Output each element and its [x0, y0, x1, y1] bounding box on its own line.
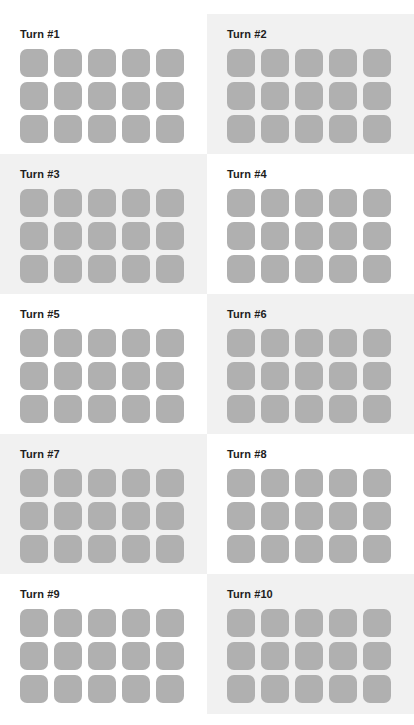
grid-tile[interactable] — [329, 535, 357, 563]
grid-tile[interactable] — [122, 189, 150, 217]
grid-tile[interactable] — [122, 609, 150, 637]
grid-tile[interactable] — [227, 189, 255, 217]
grid-tile[interactable] — [261, 469, 289, 497]
grid-tile[interactable] — [227, 115, 255, 143]
grid-tile[interactable] — [20, 222, 48, 250]
grid-tile[interactable] — [122, 255, 150, 283]
grid-tile[interactable] — [363, 535, 391, 563]
grid-tile[interactable] — [88, 82, 116, 110]
grid-tile[interactable] — [156, 329, 184, 357]
grid-tile[interactable] — [122, 675, 150, 703]
grid-tile[interactable] — [20, 675, 48, 703]
grid-tile[interactable] — [329, 255, 357, 283]
grid-tile[interactable] — [227, 395, 255, 423]
grid-tile[interactable] — [156, 535, 184, 563]
grid-tile[interactable] — [156, 49, 184, 77]
grid-tile[interactable] — [122, 329, 150, 357]
grid-tile[interactable] — [329, 502, 357, 530]
grid-tile[interactable] — [156, 222, 184, 250]
grid-tile[interactable] — [363, 502, 391, 530]
grid-tile[interactable] — [363, 49, 391, 77]
grid-tile[interactable] — [261, 535, 289, 563]
grid-tile[interactable] — [261, 395, 289, 423]
grid-tile[interactable] — [363, 115, 391, 143]
grid-tile[interactable] — [54, 49, 82, 77]
grid-tile[interactable] — [122, 82, 150, 110]
grid-tile[interactable] — [227, 502, 255, 530]
grid-tile[interactable] — [363, 255, 391, 283]
grid-tile[interactable] — [122, 115, 150, 143]
grid-tile[interactable] — [122, 222, 150, 250]
grid-tile[interactable] — [54, 642, 82, 670]
grid-tile[interactable] — [20, 362, 48, 390]
grid-tile[interactable] — [88, 502, 116, 530]
grid-tile[interactable] — [20, 329, 48, 357]
grid-tile[interactable] — [20, 395, 48, 423]
grid-tile[interactable] — [54, 222, 82, 250]
grid-tile[interactable] — [122, 362, 150, 390]
grid-tile[interactable] — [54, 469, 82, 497]
grid-tile[interactable] — [295, 82, 323, 110]
grid-tile[interactable] — [363, 222, 391, 250]
grid-tile[interactable] — [363, 189, 391, 217]
grid-tile[interactable] — [88, 189, 116, 217]
grid-tile[interactable] — [156, 675, 184, 703]
grid-tile[interactable] — [295, 395, 323, 423]
grid-tile[interactable] — [295, 469, 323, 497]
grid-tile[interactable] — [122, 535, 150, 563]
grid-tile[interactable] — [20, 642, 48, 670]
grid-tile[interactable] — [295, 502, 323, 530]
grid-tile[interactable] — [329, 222, 357, 250]
grid-tile[interactable] — [329, 82, 357, 110]
grid-tile[interactable] — [261, 115, 289, 143]
grid-tile[interactable] — [156, 115, 184, 143]
grid-tile[interactable] — [20, 502, 48, 530]
grid-tile[interactable] — [88, 609, 116, 637]
grid-tile[interactable] — [363, 82, 391, 110]
grid-tile[interactable] — [20, 82, 48, 110]
grid-tile[interactable] — [227, 362, 255, 390]
grid-tile[interactable] — [20, 609, 48, 637]
grid-tile[interactable] — [156, 82, 184, 110]
grid-tile[interactable] — [54, 609, 82, 637]
grid-tile[interactable] — [227, 469, 255, 497]
grid-tile[interactable] — [261, 502, 289, 530]
grid-tile[interactable] — [295, 115, 323, 143]
grid-tile[interactable] — [156, 469, 184, 497]
grid-tile[interactable] — [88, 222, 116, 250]
grid-tile[interactable] — [20, 115, 48, 143]
grid-tile[interactable] — [54, 255, 82, 283]
grid-tile[interactable] — [227, 535, 255, 563]
grid-tile[interactable] — [20, 255, 48, 283]
grid-tile[interactable] — [227, 222, 255, 250]
grid-tile[interactable] — [329, 115, 357, 143]
grid-tile[interactable] — [20, 469, 48, 497]
grid-tile[interactable] — [363, 675, 391, 703]
grid-tile[interactable] — [20, 535, 48, 563]
grid-tile[interactable] — [227, 609, 255, 637]
grid-tile[interactable] — [363, 362, 391, 390]
grid-tile[interactable] — [329, 642, 357, 670]
grid-tile[interactable] — [295, 329, 323, 357]
grid-tile[interactable] — [88, 115, 116, 143]
grid-tile[interactable] — [54, 189, 82, 217]
grid-tile[interactable] — [363, 395, 391, 423]
grid-tile[interactable] — [261, 362, 289, 390]
grid-tile[interactable] — [363, 642, 391, 670]
grid-tile[interactable] — [54, 82, 82, 110]
grid-tile[interactable] — [20, 49, 48, 77]
grid-tile[interactable] — [227, 329, 255, 357]
grid-tile[interactable] — [295, 675, 323, 703]
grid-tile[interactable] — [329, 469, 357, 497]
grid-tile[interactable] — [261, 329, 289, 357]
grid-tile[interactable] — [88, 469, 116, 497]
grid-tile[interactable] — [88, 362, 116, 390]
grid-tile[interactable] — [122, 49, 150, 77]
grid-tile[interactable] — [156, 609, 184, 637]
grid-tile[interactable] — [261, 82, 289, 110]
grid-tile[interactable] — [156, 255, 184, 283]
grid-tile[interactable] — [329, 609, 357, 637]
grid-tile[interactable] — [54, 329, 82, 357]
grid-tile[interactable] — [227, 49, 255, 77]
grid-tile[interactable] — [295, 362, 323, 390]
